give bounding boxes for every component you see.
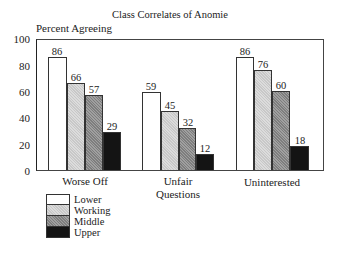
value-label: 86 — [45, 46, 69, 57]
y-axis-label: Percent Agreeing — [36, 22, 112, 34]
y-tick-80: 80 — [4, 60, 30, 72]
value-label: 57 — [82, 84, 106, 95]
y-tick-0: 0 — [4, 165, 30, 177]
legend-item-lower: Lower — [46, 194, 110, 205]
category-label-line-2: Questions — [140, 188, 216, 201]
legend-label: Upper — [74, 227, 100, 238]
legend-label: Lower — [74, 194, 101, 205]
bar-uninterested-lower — [236, 57, 254, 170]
chart-title: Class Correlates of Anomie — [0, 9, 340, 20]
legend-swatch-working — [46, 205, 70, 216]
legend-item-upper: Upper — [46, 227, 110, 238]
bar-uninterested-middle — [272, 91, 290, 170]
value-label: 59 — [139, 81, 163, 92]
legend-label: Middle — [74, 216, 104, 227]
value-label: 29 — [100, 121, 124, 132]
bar-uninterested-upper — [290, 146, 309, 170]
category-label-line-1: Unfair — [140, 175, 216, 188]
category-label-worse-off: Worse Off — [50, 175, 120, 188]
category-label-unfair-questions: Unfair Questions — [140, 175, 216, 201]
bar-worse-off-upper — [103, 132, 121, 170]
y-tick-20: 20 — [4, 139, 30, 151]
y-tick-100: 100 — [4, 33, 30, 45]
value-label: 32 — [176, 117, 200, 128]
y-tick-40: 40 — [4, 112, 30, 124]
bar-unfair-upper — [196, 154, 214, 170]
legend-swatch-upper — [46, 227, 70, 238]
value-label: 76 — [251, 59, 275, 70]
value-label: 12 — [193, 143, 217, 154]
y-tick-60: 60 — [4, 86, 30, 98]
value-label: 18 — [288, 135, 312, 146]
bar-worse-off-working — [67, 83, 85, 170]
value-label: 86 — [233, 46, 257, 57]
value-label: 60 — [269, 80, 293, 91]
value-label: 66 — [64, 72, 88, 83]
legend-item-middle: Middle — [46, 216, 110, 227]
category-label-uninterested: Uninterested — [230, 176, 314, 189]
value-label: 45 — [158, 100, 182, 111]
legend-swatch-middle — [46, 216, 70, 227]
legend: Lower Working Middle Upper — [46, 194, 110, 238]
plot-area: 86 66 57 29 59 45 32 12 86 76 60 18 — [36, 39, 324, 171]
legend-swatch-lower — [46, 194, 70, 205]
legend-label: Working — [74, 205, 110, 216]
legend-item-working: Working — [46, 205, 110, 216]
bar-worse-off-middle — [85, 95, 103, 170]
